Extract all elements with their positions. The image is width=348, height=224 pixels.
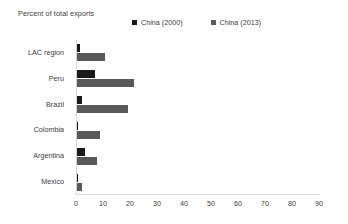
bar <box>77 105 128 113</box>
bar <box>77 148 85 156</box>
bar-group <box>77 70 320 87</box>
bar <box>77 157 97 165</box>
x-axis-tick: 10 <box>99 199 107 208</box>
chart-legend: China (2000) China (2013) <box>132 18 261 27</box>
x-axis-tick: 30 <box>153 199 161 208</box>
y-axis-line <box>76 40 77 195</box>
legend-label-china-2013: China (2013) <box>220 18 262 27</box>
bar-group <box>77 174 320 191</box>
x-axis-tick-labels: 0102030405060708090 <box>76 199 320 213</box>
bar <box>77 122 78 130</box>
legend-swatch-china-2013 <box>211 20 216 25</box>
bar-group <box>77 96 320 113</box>
bar-group <box>77 148 320 165</box>
y-axis-label: Argentina <box>33 151 64 160</box>
x-axis-tick: 90 <box>315 199 323 208</box>
x-axis-tick: 70 <box>261 199 269 208</box>
plot-area <box>76 40 320 195</box>
y-axis-label: Peru <box>49 74 64 83</box>
legend-item-china-2013: China (2013) <box>211 18 262 27</box>
x-axis-tick: 80 <box>288 199 296 208</box>
bar <box>77 70 95 78</box>
x-axis-tick: 60 <box>234 199 242 208</box>
bar <box>77 96 82 104</box>
x-axis-line <box>76 194 320 195</box>
x-axis-tick: 0 <box>74 199 78 208</box>
y-axis-label: Brazil <box>46 100 64 109</box>
bar <box>77 131 100 139</box>
x-axis-tick: 50 <box>207 199 215 208</box>
legend-label-china-2000: China (2000) <box>141 18 183 27</box>
bar-group <box>77 44 320 61</box>
legend-item-china-2000: China (2000) <box>132 18 183 27</box>
bar <box>77 53 105 61</box>
y-axis-label: Mexico <box>41 177 64 186</box>
y-axis-category-labels: LAC regionPeruBrazilColombiaArgentinaMex… <box>0 40 72 195</box>
bar <box>77 44 80 52</box>
bar <box>77 79 134 87</box>
y-axis-label: LAC region <box>28 48 64 57</box>
bar <box>77 183 82 191</box>
x-axis-tick: 40 <box>180 199 188 208</box>
bar-group <box>77 122 320 139</box>
legend-swatch-china-2000 <box>132 20 137 25</box>
bar-chart: Percent of total exports China (2000) Ch… <box>0 0 348 224</box>
bar <box>77 174 78 182</box>
y-axis-label: Colombia <box>34 125 64 134</box>
x-axis-tick: 20 <box>126 199 134 208</box>
chart-title: Percent of total exports <box>18 9 94 18</box>
